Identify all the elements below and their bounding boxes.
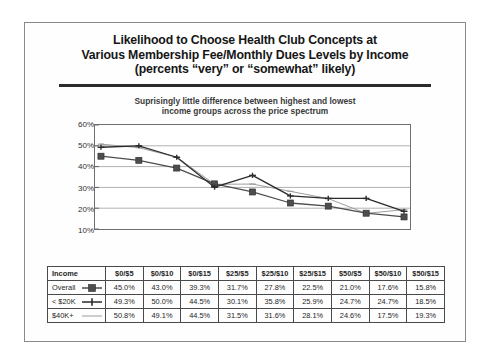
- data-table-wrap: Income$0/$5$0/$10$0/$15$25/$5$25/$10$25/…: [47, 266, 445, 323]
- table-header--0-5: $0/$5: [106, 267, 144, 281]
- subtitle-block: Suprisingly little difference between hi…: [25, 96, 465, 117]
- data-table: Income$0/$5$0/$10$0/$15$25/$5$25/$10$25/…: [47, 266, 445, 323]
- data-point-overall-7: [363, 210, 369, 216]
- table-row-label-overall: Overall: [48, 281, 106, 295]
- page-title-line-3: (percents “very” or “somewhat” likely): [39, 62, 451, 77]
- row-label-text: Overall: [52, 283, 75, 292]
- data-point-overall-4: [249, 189, 255, 195]
- page-title-line-2: Various Membership Fee/Monthly Dues Leve…: [39, 48, 451, 63]
- table-cell: 17.5%: [369, 309, 407, 323]
- data-point-overall-2: [174, 165, 180, 171]
- table-cell: 44.5%: [181, 295, 219, 309]
- y-axis-tick-label: 30%: [78, 183, 94, 192]
- row-label-text: < $20K: [52, 297, 76, 306]
- table-header--50-10: $50/$10: [369, 267, 407, 281]
- y-axis: 10%20%30%40%50%60%: [56, 124, 94, 232]
- series-line-overall: [101, 156, 404, 217]
- data-point--20k-7: [363, 196, 370, 201]
- title-divider-rule: [59, 84, 431, 87]
- table-cell: 15.8%: [407, 281, 445, 295]
- table-header-row: Income$0/$5$0/$10$0/$15$25/$5$25/$10$25/…: [48, 267, 445, 281]
- data-point--20k-6: [325, 196, 332, 201]
- table-body: Overall45.0%43.0%39.3%31.7%27.8%22.5%21.…: [48, 281, 445, 323]
- table-cell: 31.6%: [256, 309, 294, 323]
- table-cell: 30.1%: [218, 295, 256, 309]
- table-cell: 21.0%: [331, 281, 369, 295]
- table-cell: 18.5%: [407, 295, 445, 309]
- table-header--0-10: $0/$10: [143, 267, 181, 281]
- row-label-text: $40K+: [52, 311, 74, 320]
- table-cell: 43.0%: [143, 281, 181, 295]
- table-row-label--40k-: $40K+: [48, 309, 106, 323]
- table-row: Overall45.0%43.0%39.3%31.7%27.8%22.5%21.…: [48, 281, 445, 295]
- table-header: Income$0/$5$0/$10$0/$15$25/$5$25/$10$25/…: [48, 267, 445, 281]
- table-row-label--20k: < $20K: [48, 295, 106, 309]
- table-cell: 24.7%: [369, 295, 407, 309]
- table-header--25-15: $25/$15: [294, 267, 332, 281]
- plot-area: [94, 124, 411, 230]
- table-cell: 49.3%: [106, 295, 144, 309]
- table-header--25-10: $25/$10: [256, 267, 294, 281]
- table-cell: 24.6%: [331, 309, 369, 323]
- table-header--50-15: $50/$15: [407, 267, 445, 281]
- table-cell: 35.8%: [256, 295, 294, 309]
- page-title-line-1: Likelihood to Choose Health Club Concept…: [39, 33, 451, 48]
- table-cell: 25.9%: [294, 295, 332, 309]
- line-chart: 10%20%30%40%50%60%: [25, 124, 465, 240]
- y-axis-tick-label: 20%: [78, 204, 94, 213]
- slide-frame: Likelihood to Choose Health Club Concept…: [24, 22, 466, 342]
- table-cell: 50.8%: [106, 309, 144, 323]
- plot-svg: [95, 125, 410, 229]
- table-row: $40K+50.8%49.1%44.5%31.5%31.6%28.1%24.6%…: [48, 309, 445, 323]
- series-line--40k-: [101, 144, 404, 213]
- table-cell: 31.5%: [218, 309, 256, 323]
- table-header--0-15: $0/$15: [181, 267, 219, 281]
- y-axis-tick-label: 50%: [78, 141, 94, 150]
- table-cell: 17.6%: [369, 281, 407, 295]
- table-cell: 44.5%: [181, 309, 219, 323]
- data-point-overall-8: [401, 214, 407, 220]
- table-cell: 39.3%: [181, 281, 219, 295]
- table-cell: 31.7%: [218, 281, 256, 295]
- title-block: Likelihood to Choose Health Club Concept…: [25, 23, 465, 87]
- subtitle-line-1: Suprisingly little difference between hi…: [25, 96, 465, 107]
- subtitle-line-2: income groups across the price spectrum: [25, 106, 465, 117]
- table-header-income: Income: [48, 267, 106, 281]
- table-cell: 49.1%: [143, 309, 181, 323]
- legend-marker-filled-square: [82, 283, 102, 292]
- table-header--25-5: $25/$5: [218, 267, 256, 281]
- table-cell: 22.5%: [294, 281, 332, 295]
- y-axis-tick-label: 10%: [78, 225, 94, 234]
- table-cell: 27.8%: [256, 281, 294, 295]
- table-header--50-5: $50/$5: [331, 267, 369, 281]
- table-cell: 50.0%: [143, 295, 181, 309]
- table-cell: 19.3%: [407, 309, 445, 323]
- data-point-overall-5: [287, 200, 293, 206]
- table-cell: 24.7%: [331, 295, 369, 309]
- series-line--20k: [101, 146, 404, 212]
- data-point-overall-0: [98, 153, 104, 159]
- data-point-overall-1: [136, 157, 142, 163]
- table-row: < $20K49.3%50.0%44.5%30.1%35.8%25.9%24.7…: [48, 295, 445, 309]
- legend-square: [89, 284, 96, 291]
- legend-marker-plus-diamond: [82, 297, 102, 306]
- table-cell: 28.1%: [294, 309, 332, 323]
- data-point-overall-6: [325, 203, 331, 209]
- y-axis-tick-label: 40%: [78, 162, 94, 171]
- table-cell: 45.0%: [106, 281, 144, 295]
- legend-marker-light-line: [82, 311, 102, 320]
- y-axis-tick-label: 60%: [78, 119, 94, 128]
